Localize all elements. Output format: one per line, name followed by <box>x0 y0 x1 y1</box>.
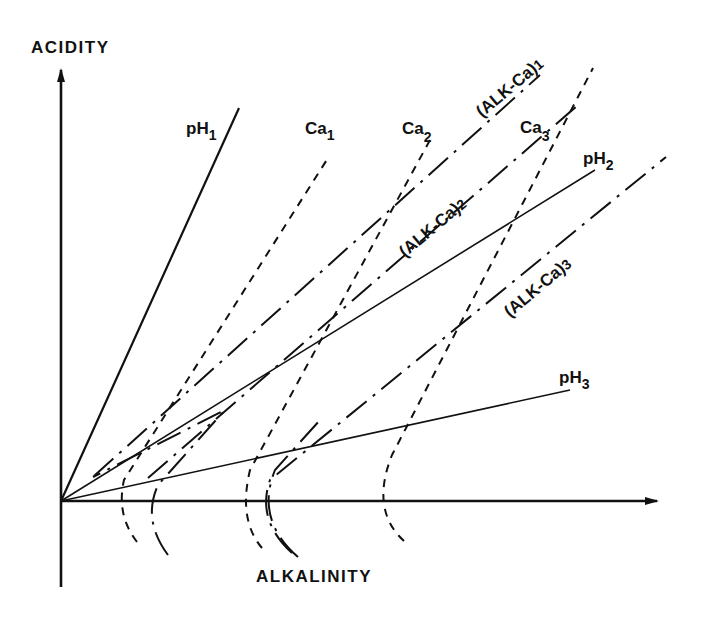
alkca2-main <box>148 105 578 478</box>
ph1-label-sub: 1 <box>209 127 217 143</box>
ca2-label-sub: 2 <box>424 129 432 145</box>
alk-ca-lines <box>93 75 666 557</box>
ca3-line <box>383 68 593 541</box>
ca1-label-base: Ca <box>305 119 327 138</box>
ca2-label-base: Ca <box>402 119 424 138</box>
alkca1-line <box>93 410 225 555</box>
ph2-label: pH2 <box>583 149 614 173</box>
x-axis-label: ALKALINITY <box>256 567 372 586</box>
ca2-line <box>246 140 430 548</box>
alkca2-label: (ALK-Ca)2 <box>395 194 470 261</box>
ca1-label-sub: 1 <box>327 127 335 143</box>
ph1-label: pH1 <box>186 119 217 143</box>
ph3-label-sub: 3 <box>582 376 590 392</box>
ca3-label-sub: 3 <box>542 128 550 144</box>
y-axis-label: ACIDITY <box>31 38 110 57</box>
ca1-label: Ca1 <box>305 119 335 143</box>
ph2-line <box>61 170 595 501</box>
ca3-label-base: Ca <box>520 118 542 137</box>
alkca3-label: (ALK-Ca)3 <box>500 254 575 321</box>
ph2-label-base: pH <box>583 149 606 168</box>
alkca3-line <box>266 157 666 553</box>
ph3-label-base: pH <box>559 368 582 387</box>
alkca1-label-base: (ALK-Ca) <box>472 59 541 121</box>
acidity-alkalinity-diagram: ACIDITY ALKALINITY pH1 Ca1 Ca2 Ca3 pH2 p… <box>0 0 702 621</box>
ph1-line <box>61 108 239 501</box>
alkca2-label-base: (ALK-Ca) <box>395 199 464 261</box>
alkca1-label: (ALK-Ca)1 <box>472 54 547 121</box>
ph1-label-base: pH <box>186 119 209 138</box>
ca2-label: Ca2 <box>402 119 432 145</box>
axes <box>61 70 657 587</box>
ph3-line <box>61 390 570 501</box>
ph2-label-sub: 2 <box>606 157 614 173</box>
ca3-label: Ca3 <box>520 118 550 144</box>
alkca3-label-base: (ALK-Ca) <box>500 259 569 321</box>
ph3-label: pH3 <box>559 368 590 392</box>
